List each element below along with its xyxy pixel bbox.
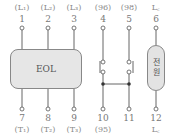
terminal-number-5: 5 [119, 14, 139, 24]
power-block: 전 원 [147, 45, 165, 91]
terminal-number-11: 11 [119, 113, 139, 123]
terminal-label-3: (L₃) [62, 3, 86, 12]
power-label-2: 원 [153, 68, 160, 78]
terminal-label-1: (L₁) [10, 3, 34, 12]
terminal-label-4: (96) [91, 3, 115, 12]
terminal-number-1: 1 [12, 14, 32, 24]
terminal-number-8: 8 [38, 113, 58, 123]
terminal-label-6: L꜀ [144, 3, 168, 12]
terminal-number-10: 10 [93, 113, 113, 123]
terminal-number-2: 2 [38, 14, 58, 24]
terminal-number-4: 4 [93, 14, 113, 24]
eol-block: EOL [10, 49, 82, 89]
terminal-number-7: 7 [12, 113, 32, 123]
terminal-label-12: L꜀ [144, 125, 168, 134]
power-label-1: 전 [153, 58, 160, 68]
terminal-number-9: 9 [64, 113, 84, 123]
terminal-number-12: 12 [146, 113, 166, 123]
terminal-number-6: 6 [146, 14, 166, 24]
terminal-number-3: 3 [64, 14, 84, 24]
terminal-label-7: (T₁) [10, 125, 34, 134]
terminal-label-2: (L₂) [36, 3, 60, 12]
terminal-label-10: (95) [91, 125, 115, 134]
terminal-label-8: (T₂) [36, 125, 60, 134]
terminal-label-5: (98) [117, 3, 141, 12]
terminal-label-9: (T₃) [62, 125, 86, 134]
eol-label: EOL [36, 64, 56, 74]
